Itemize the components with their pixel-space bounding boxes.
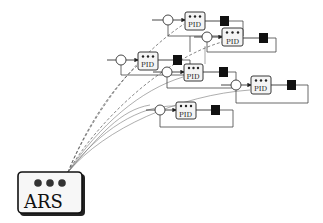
pid-label: PID: [179, 111, 192, 119]
summing-junction-icon: [155, 105, 165, 115]
control-loop-4: PID: [153, 64, 236, 88]
plant-block: [211, 105, 220, 115]
indicator-light-icon: [34, 179, 42, 187]
control-diagram: PID PID PID PID: [0, 0, 323, 223]
plant-block: [287, 80, 296, 90]
summing-junction-icon: [163, 15, 173, 25]
plant-block: [219, 67, 228, 77]
summing-junction-icon: [231, 80, 241, 90]
control-loop-2: PID: [194, 28, 276, 52]
pid-label: PID: [226, 38, 239, 46]
pid-label: PID: [187, 73, 200, 81]
plant-block: [220, 16, 229, 26]
ars-label: ARS: [23, 191, 63, 212]
pid-label: PID: [141, 61, 154, 69]
indicator-light-icon: [58, 179, 66, 187]
pid-label: PID: [188, 21, 201, 29]
plant-block: [173, 55, 182, 65]
ars-controller: ARS: [18, 172, 85, 216]
pid-label: PID: [254, 85, 267, 93]
control-loop-5: PID: [221, 76, 308, 103]
summing-junction-icon: [162, 67, 172, 77]
plant-block: [259, 33, 268, 43]
control-loop-6: PID: [146, 102, 233, 127]
summing-junction-icon: [202, 32, 212, 42]
indicator-light-icon: [46, 179, 54, 187]
summing-junction-icon: [116, 55, 126, 65]
